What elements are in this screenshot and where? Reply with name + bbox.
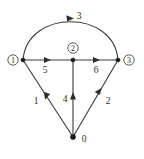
node-2-dot xyxy=(71,58,75,62)
node-3-label: 3 xyxy=(127,56,131,65)
node-0-label: 0 xyxy=(82,134,87,144)
graph-diagram: 3 5 6 1 2 4 1 2 3 0 xyxy=(0,0,144,159)
arrowhead-1-to-2 xyxy=(44,57,51,63)
arrowhead-0-to-1 xyxy=(44,92,50,100)
edge-arc-path xyxy=(23,22,118,60)
edge-label-6: 6 xyxy=(94,65,99,75)
edge-label-5: 5 xyxy=(43,65,48,75)
arrowhead-0-to-2 xyxy=(70,92,76,100)
edge-label-2: 2 xyxy=(106,96,111,106)
edge-label-1: 1 xyxy=(34,96,39,106)
edge-label-3: 3 xyxy=(77,11,82,21)
node-2: 2 xyxy=(68,43,78,62)
edge-0-to-2 xyxy=(70,60,76,137)
node-3-dot xyxy=(116,58,120,62)
edge-1-to-3 xyxy=(23,15,118,60)
node-3: 3 xyxy=(116,55,134,65)
node-1-label: 1 xyxy=(11,56,15,65)
edge-label-4: 4 xyxy=(63,94,68,104)
edge-2-to-3 xyxy=(73,57,118,63)
node-1: 1 xyxy=(8,55,25,65)
arrowhead-2-to-3 xyxy=(93,57,100,63)
node-0-dot xyxy=(70,134,75,139)
node-1-dot xyxy=(21,58,25,62)
node-2-label: 2 xyxy=(71,44,75,53)
node-0: 0 xyxy=(70,134,86,144)
arrowhead-0-to-3 xyxy=(95,88,102,95)
edge-1-to-2 xyxy=(23,57,73,63)
arrowhead-arc-1-to-3 xyxy=(67,15,75,21)
graph-canvas: 3 5 6 1 2 4 1 2 3 0 xyxy=(0,0,144,159)
